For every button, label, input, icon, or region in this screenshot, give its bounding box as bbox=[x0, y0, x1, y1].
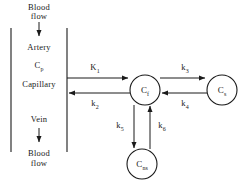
k2-subscript: 2 bbox=[96, 104, 99, 110]
plasma-subscript: p bbox=[40, 66, 43, 72]
blood-flow-top-line2: flow bbox=[31, 11, 47, 21]
compartment-cf-label: Cf bbox=[141, 85, 149, 99]
k3-subscript: 3 bbox=[186, 68, 189, 74]
blood-flow-bottom-line1: Blood bbox=[28, 148, 50, 158]
capillary-label: Capillary bbox=[22, 79, 55, 89]
k5-subscript: 5 bbox=[121, 126, 124, 132]
rate-constant-k4: k4 bbox=[181, 98, 188, 112]
compartment-cs-label: Cs bbox=[218, 85, 227, 99]
k4-subscript: 4 bbox=[186, 104, 189, 110]
rate-constant-k3: k3 bbox=[181, 62, 188, 76]
k1-subscript: 1 bbox=[97, 68, 100, 74]
compartment-diagram: Blood flow Artery Cp Capillary Vein Bloo… bbox=[0, 0, 250, 188]
cf-subscript: f bbox=[147, 91, 149, 97]
rate-constant-k1: K1 bbox=[90, 62, 99, 76]
cs-subscript: s bbox=[224, 91, 226, 97]
plasma-concentration-label: Cp bbox=[35, 60, 44, 74]
artery-label: Artery bbox=[27, 42, 50, 52]
vein-label: Vein bbox=[31, 114, 47, 124]
rate-constant-k2: k2 bbox=[91, 98, 98, 112]
cns-subscript: ns bbox=[142, 165, 147, 171]
rate-constant-k6: k6 bbox=[158, 120, 165, 134]
blood-flow-bottom-line2: flow bbox=[31, 158, 47, 168]
compartment-cns-label: Cns bbox=[136, 159, 148, 173]
k6-subscript: 6 bbox=[163, 126, 166, 132]
rate-constant-k5: k5 bbox=[116, 120, 123, 134]
